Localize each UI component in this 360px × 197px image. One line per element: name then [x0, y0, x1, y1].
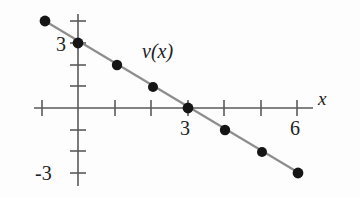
- data-point: [40, 16, 51, 27]
- x-tick-label-3: 3: [180, 118, 190, 138]
- data-point: [220, 125, 230, 135]
- data-point: [148, 82, 158, 92]
- y-tick-label-3: 3: [56, 34, 66, 54]
- chart-figure: 3 -3 3 6 x v(x): [0, 0, 360, 197]
- data-point: [293, 168, 304, 179]
- data-point: [257, 147, 267, 157]
- y-tick-label-negative-3: -3: [35, 163, 52, 183]
- curve-label-v-of-x: v(x): [142, 41, 173, 61]
- data-point: [183, 103, 194, 114]
- x-tick-label-6: 6: [290, 118, 300, 138]
- data-point: [73, 38, 84, 49]
- data-point: [112, 60, 122, 70]
- x-axis-label: x: [318, 89, 326, 108]
- plot-canvas: [0, 0, 360, 197]
